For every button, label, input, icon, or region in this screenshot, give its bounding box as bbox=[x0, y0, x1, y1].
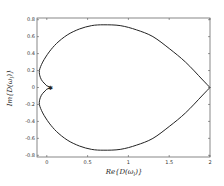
y-tick-label: 0.6 bbox=[27, 33, 35, 39]
y-tick-label: 0.8 bbox=[27, 16, 35, 22]
y-axis-label: Im{D(ωl)} bbox=[6, 70, 15, 108]
y-tick-label: -0.4 bbox=[25, 118, 35, 124]
y-tick-label: 0 bbox=[32, 84, 35, 90]
origin-marker: ✱ bbox=[48, 84, 53, 91]
nyquist-chart: 00.511.52 0.80.60.40.20-0.2-0.4-0.6-0.8 … bbox=[0, 0, 224, 186]
x-tick-label: 0.5 bbox=[84, 159, 92, 165]
x-tick-label: 1.5 bbox=[165, 159, 173, 165]
star-marker-icon: ✱ bbox=[48, 84, 53, 91]
plot-area bbox=[37, 18, 210, 157]
x-tick-label: 0 bbox=[45, 159, 48, 165]
x-tick-label: 2 bbox=[208, 159, 211, 165]
y-tick-label: -0.8 bbox=[25, 152, 35, 158]
y-tick-label: 0.2 bbox=[27, 67, 35, 73]
x-tick-label: 1 bbox=[127, 159, 130, 165]
y-tick-label: 0.4 bbox=[27, 50, 35, 56]
y-tick-label: -0.2 bbox=[25, 101, 35, 107]
x-axis-label: Re{D(ωl)} bbox=[105, 168, 143, 177]
y-tick-label: -0.6 bbox=[25, 135, 35, 141]
